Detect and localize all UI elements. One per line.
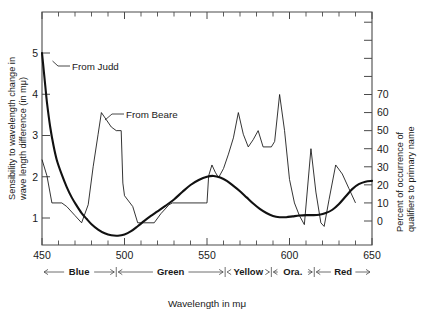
x-tick-labels: 450500550600650 <box>33 249 381 261</box>
color-band-ruler: BlueGreenYellowOra.Red <box>44 266 370 277</box>
y-left-tick-label: 5 <box>32 47 38 59</box>
y-left-axis-title-line1: Sensibility to wavelength change in <box>7 57 17 200</box>
y-right-tick-label: 10 <box>377 197 389 209</box>
x-tick-label: 550 <box>198 249 216 261</box>
y-right-tick-label: 30 <box>377 161 389 173</box>
y-left-axis-title-line2: wave length difference (in mμ) <box>18 77 28 201</box>
x-tick-label: 500 <box>116 249 134 261</box>
y-right-tick-label: 20 <box>377 179 389 191</box>
right-axis-ticks <box>364 22 372 221</box>
y-right-axis-title: Percent of occurrence of qualifiers to p… <box>395 126 416 232</box>
judd-leader-line <box>53 61 71 66</box>
band-label-red: Red <box>334 266 352 277</box>
chart-figure: 450500550600650 12345 010203040506070 Fr… <box>0 0 423 315</box>
y-right-axis-title-line2: qualifiers to primary name <box>406 126 416 232</box>
y-left-tick-label: 3 <box>32 129 38 141</box>
y-right-axis-title-line1: Percent of occurrence of <box>395 131 405 232</box>
band-label-blue: Blue <box>69 266 90 277</box>
band-label-green: Green <box>157 266 185 277</box>
annotation-beare-label: From Beare <box>126 109 178 120</box>
y-right-tick-label: 40 <box>377 143 389 155</box>
chart-canvas: 450500550600650 12345 010203040506070 Fr… <box>0 0 423 315</box>
band-label-yellow: Yellow <box>233 266 263 277</box>
series-from-judd <box>42 53 372 236</box>
y-right-tick-label: 0 <box>377 215 383 227</box>
y-right-tick-label: 60 <box>377 106 389 118</box>
band-arrow-left <box>227 269 231 274</box>
y-right-tick-label: 50 <box>377 124 389 136</box>
annotation-beare: From Beare <box>105 109 178 121</box>
y-left-tick-label: 1 <box>32 212 38 224</box>
x-tick-label: 450 <box>33 249 51 261</box>
left-axis-ticks <box>42 53 50 218</box>
top-axis-ticks <box>42 12 372 19</box>
plot-frame <box>42 12 372 245</box>
y-left-tick-label: 2 <box>32 171 38 183</box>
band-label-orange: Ora. <box>283 266 302 277</box>
annotation-judd-label: From Judd <box>72 61 119 72</box>
bottom-axis-ticks <box>42 238 372 245</box>
x-tick-label: 600 <box>281 249 299 261</box>
y-right-tick-label: 70 <box>377 88 389 100</box>
x-tick-label: 650 <box>363 249 381 261</box>
beare-leader-line <box>105 114 124 120</box>
series-from-beare <box>42 95 356 227</box>
band-arrow-right <box>265 269 269 274</box>
y-left-axis-title: Sensibility to wavelength change in wave… <box>7 57 28 201</box>
axis-frame <box>42 12 372 245</box>
y-right-tick-labels: 010203040506070 <box>377 88 389 227</box>
annotation-judd: From Judd <box>53 61 119 72</box>
x-axis-title: Wavelength in mμ <box>168 298 246 309</box>
y-left-tick-label: 4 <box>32 88 38 100</box>
y-left-tick-labels: 12345 <box>32 47 38 224</box>
data-series-group <box>42 53 372 236</box>
